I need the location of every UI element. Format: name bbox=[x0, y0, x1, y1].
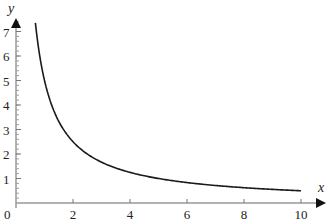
y-tick-label: 5 bbox=[3, 74, 10, 89]
x-axis-arrow-icon bbox=[316, 198, 326, 208]
series-line bbox=[35, 23, 301, 191]
y-axis-label: y bbox=[6, 1, 15, 16]
y-tick-label: 4 bbox=[3, 98, 10, 113]
y-tick-label: 2 bbox=[3, 147, 10, 162]
x-tick-label: 4 bbox=[127, 207, 134, 222]
y-ticks: 1234567 bbox=[3, 25, 21, 187]
x-tick-label: 2 bbox=[70, 207, 77, 222]
y-tick-label: 7 bbox=[3, 25, 10, 40]
y-tick-label: 1 bbox=[3, 172, 10, 187]
y-axis-arrow-icon bbox=[11, 18, 21, 28]
x-axis-label: x bbox=[317, 180, 325, 195]
y-tick-label: 3 bbox=[3, 123, 10, 138]
chart: 246810 1234567 y x 0 bbox=[0, 0, 329, 222]
x-tick-label: 8 bbox=[241, 207, 248, 222]
x-tick-label: 10 bbox=[295, 207, 308, 222]
y-tick-label: 6 bbox=[3, 49, 10, 64]
x-tick-label: 6 bbox=[184, 207, 191, 222]
origin-label: 0 bbox=[4, 207, 11, 222]
